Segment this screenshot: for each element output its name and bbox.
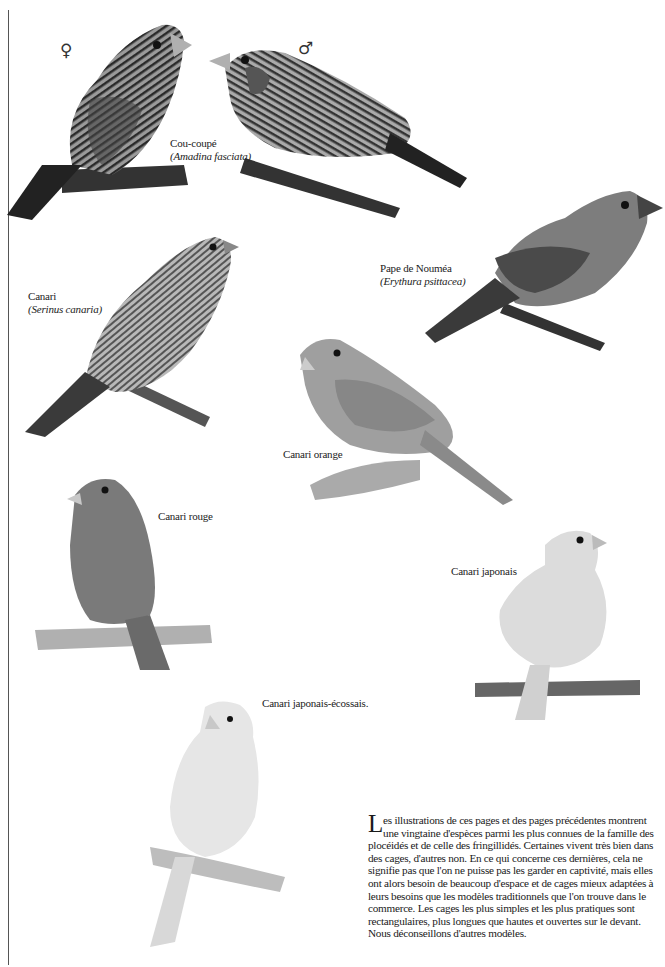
illustration-cou-coupe-female xyxy=(2,15,197,220)
caption-common-name: Canari xyxy=(28,290,56,302)
caption-common-name: Cou-coupé xyxy=(170,137,216,149)
caption-canari-japonais: Canari japonais xyxy=(451,565,517,578)
caption-canari-rouge: Canari rouge xyxy=(158,510,213,523)
illustration-canari-japonais xyxy=(475,525,640,725)
caption-common-name: Canari japonais xyxy=(451,565,517,577)
caption-common-name: Pape de Nouméa xyxy=(380,262,452,274)
body-paragraph: Les illustrations de ces pages et des pa… xyxy=(368,814,660,940)
caption-canari-japonais-ecossais: Canari japonais-écossais. xyxy=(262,697,368,710)
caption-cou-coupe: Cou-coupé (Amadina fasciata) xyxy=(170,137,251,163)
caption-canari: Canari (Serinus canaria) xyxy=(28,290,102,316)
caption-pape-de-noumea: Pape de Nouméa (Erythura psittacea) xyxy=(380,262,466,288)
caption-latin-name: (Erythura psittacea) xyxy=(380,275,466,288)
caption-latin-name: (Amadina fasciata) xyxy=(170,150,251,163)
illustration-canari-rouge xyxy=(30,475,215,670)
illustration-canari-orange xyxy=(295,335,515,505)
caption-common-name: Canari orange xyxy=(283,448,342,460)
caption-latin-name: (Serinus canaria) xyxy=(28,303,102,316)
caption-common-name: Canari rouge xyxy=(158,510,213,522)
drop-cap: L xyxy=(368,814,383,833)
illustration-canari-japonais-ecossais xyxy=(145,697,285,952)
caption-canari-orange: Canari orange xyxy=(283,448,342,461)
caption-common-name: Canari japonais-écossais. xyxy=(262,697,368,709)
illustration-canari xyxy=(25,232,240,437)
paragraph-text: es illustrations de ces pages et des pag… xyxy=(368,814,654,939)
